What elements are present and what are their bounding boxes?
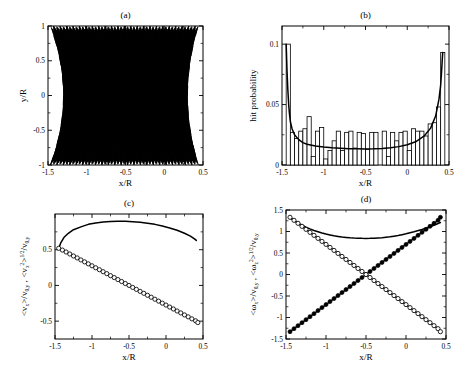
panel-d-ascending-marker <box>388 254 392 258</box>
panel-d-ascending-marker <box>308 315 312 319</box>
histogram-bar <box>424 136 428 165</box>
panel-d-descending-marker <box>308 230 312 234</box>
panel-d-ascending-marker <box>316 309 320 313</box>
panel-d-ascending-marker <box>288 330 292 334</box>
xtick-label: 0.5 <box>444 168 454 177</box>
ytick-label: -0.5 <box>40 317 52 326</box>
panel-b-ylabel: hit probability <box>248 69 258 122</box>
panel-d-descending-marker <box>320 239 324 243</box>
histogram-bar <box>399 132 403 165</box>
histogram-bar <box>407 151 411 166</box>
panel-d-descending-marker <box>292 218 296 222</box>
panel-d-ascending-marker <box>396 248 400 252</box>
ytick-label: -1.5 <box>271 335 283 344</box>
histogram-bar <box>403 131 407 165</box>
xtick-label: 0.5 <box>198 342 208 351</box>
panel-d-ascending-marker <box>304 318 308 322</box>
panel-d-descending-marker <box>392 293 396 297</box>
xtick-label: -0.5 <box>120 168 132 177</box>
panel-d-caption: (d) <box>361 194 372 204</box>
ytick-label: 1.5 <box>274 206 284 215</box>
panel-d-descending-marker <box>288 215 292 219</box>
panel-d-ascending-marker <box>320 306 324 310</box>
panel-d-ascending-marker <box>292 327 296 331</box>
panel-d-xlabel: x/R <box>359 352 373 362</box>
panel-d-ascending-marker <box>424 227 428 231</box>
histogram-bar <box>328 151 332 166</box>
panel-c-xlabel: x/R <box>122 352 136 362</box>
histogram-bar <box>303 129 307 165</box>
ytick-label: -1 <box>277 313 283 322</box>
panel-d-descending-marker <box>360 269 364 273</box>
panel-d-ascending-marker <box>356 279 360 283</box>
panel-d-ascending-marker <box>348 285 352 289</box>
four-panel-scientific-figure: -1.5-1-0.500.5-1-0.500.51(a)x/Ry/R-1.5-1… <box>0 0 473 382</box>
ytick-label: 0 <box>41 91 45 100</box>
panel-d-ascending-marker <box>332 297 336 301</box>
ytick-label: 0 <box>48 281 52 290</box>
panel-d-descending-marker <box>424 318 428 322</box>
histogram-bar <box>386 157 390 165</box>
ytick-label: -0.5 <box>271 292 283 301</box>
panel-d-descending-marker <box>316 236 320 240</box>
panel-d-descending-marker <box>348 260 352 264</box>
panel-d-descending-marker <box>416 312 420 316</box>
panel-d-ascending-marker <box>300 321 304 325</box>
panel-d-ascending-marker <box>368 269 372 273</box>
histogram-bar <box>299 131 303 165</box>
panel-d-descending-marker <box>328 245 332 249</box>
panel-a-xlabel: x/R <box>119 178 133 188</box>
histogram-bar <box>436 107 440 165</box>
panel-d-descending-marker <box>304 227 308 231</box>
panel-d-descending-marker <box>420 315 424 319</box>
panel-d-descending-marker <box>408 306 412 310</box>
panel-c-mean-marker <box>196 320 200 324</box>
panel-d-descending-marker <box>380 284 384 288</box>
panel-d-descending-marker <box>412 309 416 313</box>
ytick-label: 0 <box>279 270 283 279</box>
histogram-bar <box>324 159 328 165</box>
panel-d-ascending-marker <box>312 312 316 316</box>
panel-d-descending-marker <box>432 324 436 328</box>
panel-c-caption: (c) <box>124 198 134 208</box>
ytick-label: 0 <box>275 161 279 170</box>
panel-d-descending-marker <box>356 266 360 270</box>
panel-d-descending-marker <box>396 296 400 300</box>
histogram-bar <box>366 149 370 165</box>
xtick-label: -1 <box>89 342 95 351</box>
panel-c-frame <box>55 214 203 339</box>
ytick-label: 0.5 <box>36 56 46 65</box>
ytick-label: 1 <box>41 22 45 31</box>
panel-d-ascending-marker <box>404 242 408 246</box>
panel-d-ascending-marker <box>408 239 412 243</box>
panel-a-ylabel: y/R <box>18 88 28 102</box>
histogram-bar <box>332 141 336 165</box>
panel-d-ascending-marker <box>416 233 420 237</box>
panel-d-ascending-marker <box>296 324 300 328</box>
panel-b-xlabel: x/R <box>359 178 373 188</box>
panel-d-descending-marker <box>336 251 340 255</box>
panel-d-ascending-marker <box>432 221 436 225</box>
panel-d-ascending-marker <box>438 215 442 219</box>
xtick-label: -1 <box>321 168 327 177</box>
panel-c: -1.5-1-0.500.5-0.500.5(c)x/R <box>40 198 208 362</box>
histogram-bar <box>416 131 420 165</box>
panel-d-descending-marker <box>344 257 348 261</box>
panel-c-series <box>57 221 200 324</box>
panel-d-ascending-marker <box>400 245 404 249</box>
panel-d-ascending-marker <box>324 303 328 307</box>
panel-b-caption: (b) <box>360 10 371 20</box>
panel-b-histogram <box>286 44 445 165</box>
histogram-bar <box>290 132 294 165</box>
histogram-bar <box>295 138 299 165</box>
panel-d-descending-marker <box>340 254 344 258</box>
panel-d-descending-marker <box>384 287 388 291</box>
panel-d-ascending-marker <box>412 236 416 240</box>
panel-d-ascending-marker <box>336 294 340 298</box>
xtick-label: -0.5 <box>360 168 372 177</box>
panel-c-rms-curve <box>59 221 197 248</box>
xtick-label: 0 <box>162 168 166 177</box>
panel-d-descending-marker <box>364 272 368 276</box>
panel-d-ascending-marker <box>428 224 432 228</box>
panel-a-caption: (a) <box>120 10 130 20</box>
